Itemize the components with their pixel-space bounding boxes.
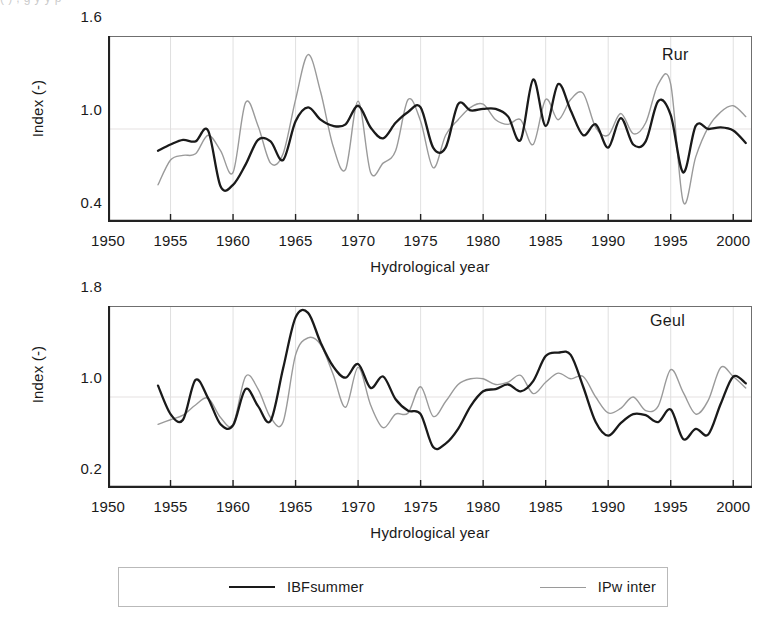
plot-area-rur [108, 36, 752, 222]
legend-label-ipwinter: IPw inter [598, 579, 656, 595]
x-tick-label: 1980 [466, 498, 500, 515]
x-tick-label: 1980 [466, 232, 500, 249]
x-axis-label-rur: Hydrological year [108, 258, 752, 275]
x-tick-label: 1950 [91, 232, 125, 249]
figure-hydrological-indices: ( ) , g y y p Index (-) 0.41.01.6 195019… [0, 0, 782, 634]
y-tick-label: 1.0 [56, 101, 102, 118]
y-axis-label-rur: Index (-) [29, 39, 46, 179]
x-tick-label: 1995 [654, 232, 688, 249]
line-swatch-icon-ibfsummer [229, 586, 275, 588]
x-tick-label: 2000 [716, 498, 750, 515]
x-tick-label: 1990 [591, 498, 625, 515]
x-tick-label: 1975 [404, 498, 438, 515]
panel-title-rur: Rur [662, 46, 689, 64]
x-tick-label: 1960 [216, 498, 250, 515]
legend-entry-ipwinter: IPw inter [540, 579, 656, 595]
y-tick-label: 0.4 [56, 194, 102, 211]
panel-title-geul: Geul [650, 312, 685, 330]
chart-panel-rur: Index (-) 0.41.01.6 19501955196019651970… [0, 18, 782, 288]
x-tick-label: 1970 [341, 232, 375, 249]
y-axis-label-geul: Index (-) [29, 305, 46, 445]
legend-label-ibfsummer: IBFsummer [287, 579, 364, 595]
x-tick-label: 1955 [153, 498, 187, 515]
x-tick-label: 1965 [278, 498, 312, 515]
plot-svg-rur [108, 36, 752, 222]
y-tick-label: 1.8 [56, 278, 102, 295]
x-tick-label: 1950 [91, 498, 125, 515]
x-tick-label: 2000 [716, 232, 750, 249]
x-tick-label: 1965 [278, 232, 312, 249]
y-tick-label: 1.0 [56, 369, 102, 386]
x-tick-label: 1975 [404, 232, 438, 249]
x-tick-label: 1995 [654, 498, 688, 515]
legend-entry-ibfsummer: IBFsummer [229, 579, 364, 595]
cropped-caption-artifact: ( ) , g y y p [0, 0, 782, 14]
x-tick-label: 1985 [529, 232, 563, 249]
line-swatch-icon-ipwinter [540, 587, 586, 588]
x-tick-label: 1960 [216, 232, 250, 249]
plot-svg-geul [108, 306, 752, 488]
x-tick-label: 1970 [341, 498, 375, 515]
x-tick-label: 1955 [153, 232, 187, 249]
x-axis-label-geul: Hydrological year [108, 524, 752, 541]
x-tick-labels-rur: 1950195519601965197019751980198519901995… [108, 232, 752, 252]
x-tick-labels-geul: 1950195519601965197019751980198519901995… [108, 498, 752, 518]
x-tick-label: 1985 [529, 498, 563, 515]
y-tick-label: 0.2 [56, 460, 102, 477]
y-tick-labels-rur: 0.41.01.6 [50, 18, 102, 204]
y-tick-label: 1.6 [56, 8, 102, 25]
chart-panel-geul: Index (-) 0.21.01.8 19501955196019651970… [0, 288, 782, 550]
x-tick-label: 1990 [591, 232, 625, 249]
chart-legend: IBFsummer IPw inter [118, 567, 668, 607]
y-tick-labels-geul: 0.21.01.8 [50, 288, 102, 470]
cropped-caption-text: ( ) , g y y p [0, 0, 62, 5]
plot-area-geul [108, 306, 752, 488]
